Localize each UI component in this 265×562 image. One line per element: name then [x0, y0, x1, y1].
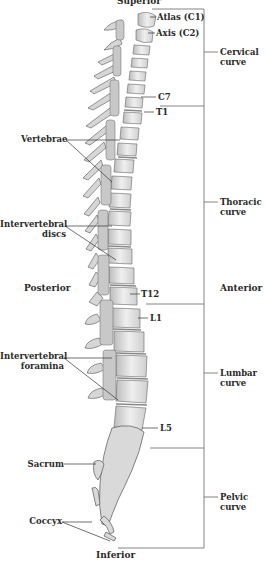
foramina-label-line1: Intervertebral	[0, 351, 64, 361]
thoracic-curve-label: Thoracic curve	[220, 197, 262, 217]
lumbar-curve-label: Lumbar curve	[220, 368, 257, 388]
superior-label: Superior	[117, 0, 161, 6]
intervertebral-discs-label: Intervertebral discs	[0, 219, 66, 239]
intervertebral-foramina-label: Intervertebral foramina	[0, 351, 64, 371]
vertebrae-label: Vertebrae	[21, 134, 67, 144]
l1-label: L1	[150, 313, 162, 323]
foramina-label-line2: foramina	[0, 361, 64, 371]
discs-label-line2: discs	[0, 229, 66, 239]
pelvic-curve-line2: curve	[220, 502, 248, 512]
sacrum-label: Sacrum	[20, 459, 64, 469]
pelvic-curve-label: Pelvic curve	[220, 492, 248, 512]
sacrum-coccyx	[92, 426, 144, 541]
posterior-label: Posterior	[24, 283, 70, 293]
inferior-label: Inferior	[96, 550, 135, 560]
c7-label: C7	[158, 92, 171, 102]
pelvic-curve-line1: Pelvic	[220, 492, 248, 502]
l5-label: L5	[160, 423, 172, 433]
spine-illustration	[0, 0, 265, 562]
t12-label: T12	[141, 289, 159, 299]
atlas-label: Atlas (C1)	[157, 12, 205, 22]
cervical-curve-line1: Cervical	[220, 47, 259, 57]
cervical-curve-label: Cervical curve	[220, 47, 259, 67]
cervical-curve-line2: curve	[220, 57, 259, 67]
coccyx-label: Coccyx	[22, 516, 62, 526]
lumbar-curve-line2: curve	[220, 378, 257, 388]
lumbar-curve-line1: Lumbar	[220, 368, 257, 378]
discs-label-line1: Intervertebral	[0, 219, 66, 229]
thoracic-curve-line2: curve	[220, 207, 262, 217]
t1-label: T1	[156, 107, 168, 117]
axis-label: Axis (C2)	[156, 28, 199, 38]
thoracic-curve-line1: Thoracic	[220, 197, 262, 207]
anterior-label: Anterior	[220, 283, 262, 293]
